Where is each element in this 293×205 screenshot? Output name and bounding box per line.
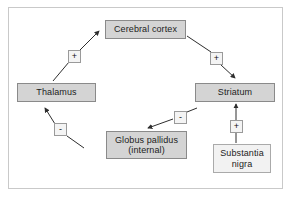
diagram-canvas: Cerebral cortex Thalamus Striatum Globus… <box>0 0 293 205</box>
sign-cortex-from-thalamus[interactable]: + <box>68 50 81 63</box>
node-globus-pallidus[interactable]: Globus pallidus (internal) <box>106 131 187 159</box>
sign-striatum-to-gpi[interactable]: - <box>174 111 187 124</box>
sign-cortex-to-striatum[interactable]: + <box>210 52 223 65</box>
node-substantia-nigra[interactable]: Substantia nigra <box>213 144 271 173</box>
node-cerebral-cortex[interactable]: Cerebral cortex <box>105 20 186 39</box>
node-striatum[interactable]: Striatum <box>195 83 275 102</box>
node-thalamus[interactable]: Thalamus <box>17 83 96 102</box>
sign-gpi-to-thalamus[interactable]: - <box>54 123 67 136</box>
edge-striatum-to-globus-pallidus <box>148 108 197 128</box>
sign-nigra-to-striatum[interactable]: + <box>230 120 243 133</box>
